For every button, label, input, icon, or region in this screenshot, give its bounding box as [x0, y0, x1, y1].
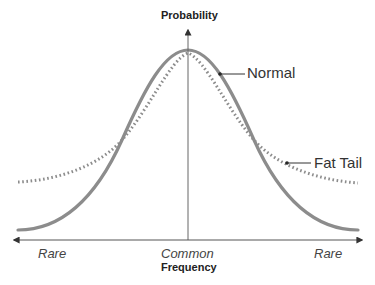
x-axis-title: Frequency [161, 261, 217, 273]
x-tick-rare-left: Rare [38, 246, 66, 261]
x-tick-common: Common [161, 246, 214, 261]
normal-label: Normal [247, 64, 295, 81]
chart-canvas [0, 0, 375, 285]
fat-tail-label: Fat Tail [314, 154, 362, 171]
x-tick-rare-right: Rare [314, 246, 342, 261]
y-axis-title: Probability [161, 9, 218, 21]
